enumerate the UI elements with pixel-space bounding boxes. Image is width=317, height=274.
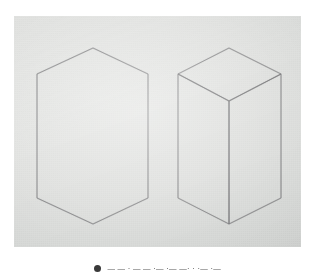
page-root: — — · — — ·— ·— —· · ·— ·— <box>0 0 317 274</box>
drawing-canvas <box>14 16 301 247</box>
bullet-marker-icon <box>94 265 101 272</box>
figure-caption: — — · — — ·— ·— —· · ·— ·— <box>14 249 301 274</box>
caption-text: — — · — — ·— ·— —· · ·— ·— <box>107 264 221 273</box>
pencil-drawing-photograph <box>14 16 301 247</box>
isometric-box <box>178 48 281 224</box>
caption-line: — — · — — ·— ·— —· · ·— ·— <box>14 264 301 273</box>
hexagon-outline <box>37 48 148 224</box>
